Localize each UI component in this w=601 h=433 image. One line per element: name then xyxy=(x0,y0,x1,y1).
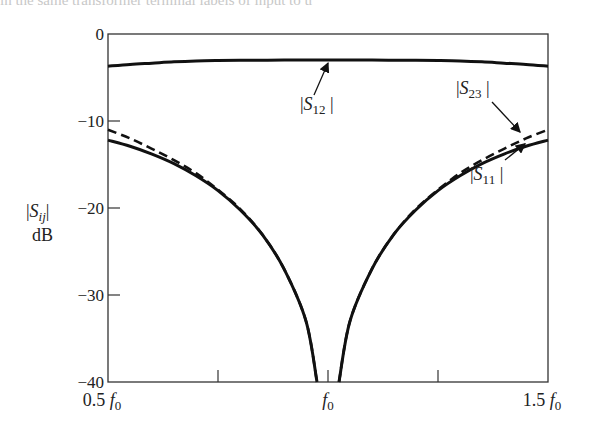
y-axis-label: |Sij| xyxy=(26,201,49,224)
annotation-label: |S12 | xyxy=(300,94,334,117)
curve-s23-right xyxy=(339,130,548,382)
annotation-label: |S11 | xyxy=(470,164,503,187)
annotation-arrow xyxy=(314,63,328,95)
annotation-arrow xyxy=(492,102,520,132)
curve-annotations: |S12 ||S23 ||S11 | xyxy=(300,63,525,187)
y-axis-unit: dB xyxy=(32,225,53,245)
s-parameter-chart: 0−10−20−30−400.5 f0f01.5 f0|Sij|dB |S12 … xyxy=(0,0,601,433)
x-tick-label: f0 xyxy=(322,390,334,413)
x-tick-label: 1.5 f0 xyxy=(523,390,562,413)
x-tick-label: 0.5 f0 xyxy=(83,390,122,413)
curve-s11-right xyxy=(339,140,548,382)
curve-s11-left xyxy=(108,140,317,382)
y-tick-label: 0 xyxy=(96,25,105,44)
y-tick-label: −30 xyxy=(77,286,104,305)
y-tick-label: −10 xyxy=(77,112,104,131)
curve-s23-left xyxy=(108,130,317,382)
y-tick-label: −20 xyxy=(77,199,104,218)
annotation-label: |S23 | xyxy=(456,78,490,101)
